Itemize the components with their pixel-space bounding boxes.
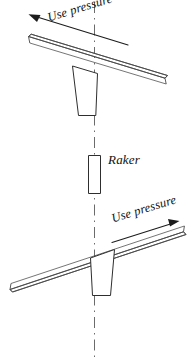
file-bar-top <box>29 34 168 84</box>
raker-tooth-bottom <box>91 250 115 296</box>
diagram-canvas <box>0 0 188 361</box>
raker-diagram-figure: Use pressure Raker Use pressure <box>0 0 188 361</box>
arrow-head-top-icon <box>29 14 41 22</box>
raker-tooth-detail <box>89 156 101 194</box>
raker-tooth-top <box>73 66 98 116</box>
raker-label: Raker <box>108 153 140 166</box>
arrow-head-bottom-icon <box>168 219 180 227</box>
